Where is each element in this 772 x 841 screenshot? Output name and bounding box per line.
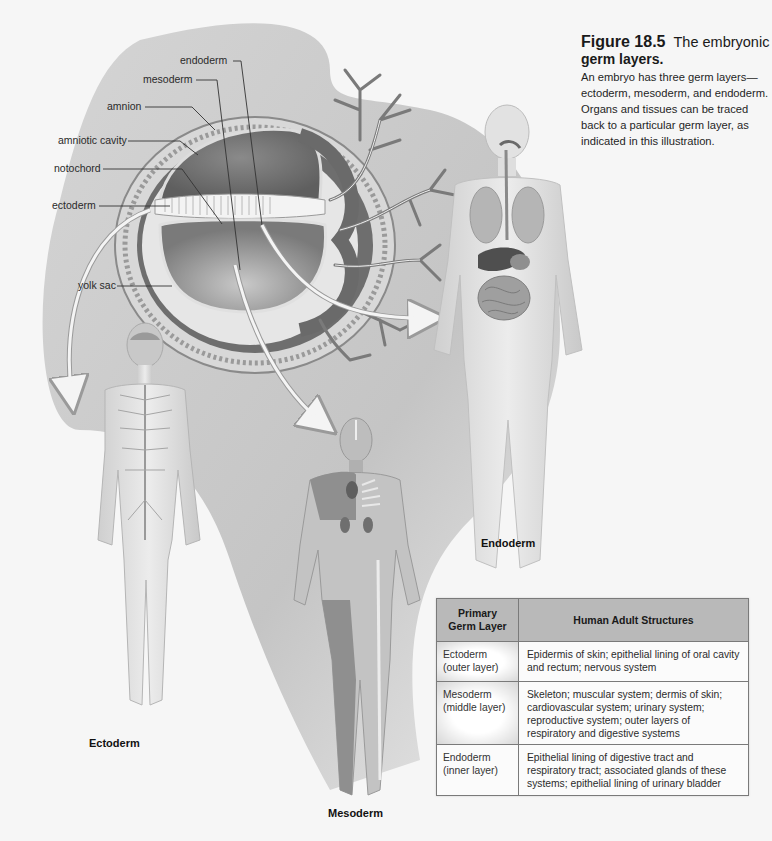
germ-layer-cell: Endoderm (inner layer): [437, 745, 519, 796]
germ-layer-table: Primary Germ Layer Human Adult Structure…: [436, 598, 749, 796]
label-endoderm: endoderm: [180, 54, 227, 66]
structures-cell: Skeleton; muscular system; dermis of ski…: [519, 682, 749, 745]
caption-line: back to a particular germ layer, as: [581, 117, 771, 133]
caption-line: indicated in this illustration.: [581, 133, 771, 149]
label-notochord: notochord: [54, 162, 101, 174]
label-mesoderm-figure: Mesoderm: [328, 807, 383, 819]
label-ectoderm-figure: Ectoderm: [89, 737, 140, 749]
figure-title-line1: The embryonic: [673, 34, 769, 50]
header-primary-germ-layer: Primary Germ Layer: [437, 599, 519, 642]
label-endoderm-figure: Endoderm: [481, 537, 535, 549]
germ-layer-cell: Ectoderm (outer layer): [437, 642, 519, 682]
figure-caption: Figure 18.5The embryonic germ layers. An…: [581, 33, 771, 149]
label-yolk-sac: yolk sac: [78, 279, 116, 291]
germ-layer-cell: Mesoderm (middle layer): [437, 682, 519, 745]
label-mesoderm: mesoderm: [143, 73, 193, 85]
figure-number: Figure 18.5: [581, 33, 665, 50]
structures-cell: Epidermis of skin; epithelial lining of …: [519, 642, 749, 682]
label-amniotic-cavity: amniotic cavity: [58, 134, 127, 146]
label-amnion: amnion: [107, 100, 141, 112]
figure-title-line2: germ layers.: [581, 51, 771, 68]
figure-title: Figure 18.5The embryonic germ layers.: [581, 33, 771, 68]
table-row-endoderm: Endoderm (inner layer) Epithelial lining…: [437, 745, 749, 796]
header-human-adult-structures: Human Adult Structures: [519, 599, 749, 642]
caption-line: Organs and tissues can be traced: [581, 101, 771, 117]
caption-line: ectoderm, mesoderm, and endoderm.: [581, 85, 771, 101]
table-row-ectoderm: Ectoderm (outer layer) Epidermis of skin…: [437, 642, 749, 682]
caption-line: An embryo has three germ layers—: [581, 69, 771, 85]
table-row-mesoderm: Mesoderm (middle layer) Skeleton; muscul…: [437, 682, 749, 745]
structures-cell: Epithelial lining of digestive tract and…: [519, 745, 749, 796]
table-header-row: Primary Germ Layer Human Adult Structure…: [437, 599, 749, 642]
figure-canvas: endoderm mesoderm amnion amniotic cavity…: [0, 0, 772, 841]
label-ectoderm: ectoderm: [52, 199, 96, 211]
figure-description: An embryo has three germ layers— ectoder…: [581, 69, 771, 149]
